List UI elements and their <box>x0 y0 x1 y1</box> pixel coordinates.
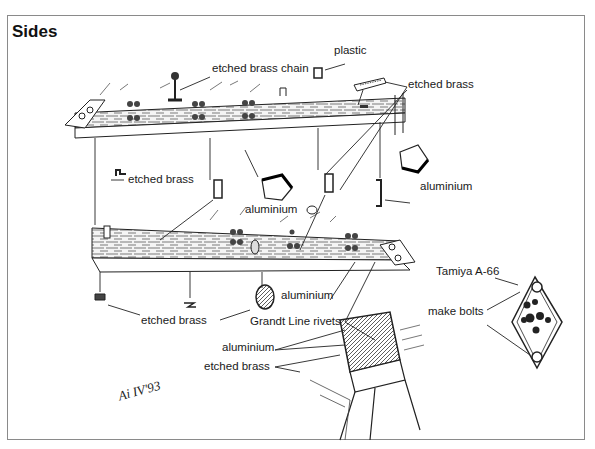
hull-corner-drawing <box>310 312 424 440</box>
label-aluminium-center: aluminium <box>245 203 297 215</box>
label-aluminium-bottom: aluminium <box>281 289 333 301</box>
label-grandt-line-rivets: Grandt Line rivets <box>250 315 341 327</box>
label-etched-brass-chain: etched brass chain <box>212 62 309 74</box>
label-aluminium-right: aluminium <box>420 180 472 192</box>
lower-side-panel <box>92 207 415 272</box>
label-etched-brass-bottom: etched brass <box>141 314 207 326</box>
label-plastic: plastic <box>334 44 367 56</box>
tamiya-plate-drawing <box>512 277 562 368</box>
label-etched-brass-left: etched brass <box>128 173 194 185</box>
upper-side-panel <box>65 72 405 138</box>
label-aluminium-lower: aluminium <box>222 341 274 353</box>
label-etched-brass-top-right: etched brass <box>408 78 474 90</box>
label-etched-brass-lower: etched brass <box>204 360 270 372</box>
label-tamiya-a66: Tamiya A-66 <box>436 265 499 277</box>
label-make-bolts: make bolts <box>428 305 484 317</box>
